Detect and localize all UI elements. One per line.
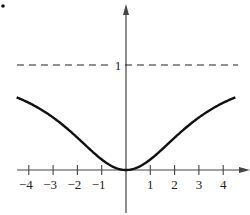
x-tick-label: 1: [147, 177, 154, 192]
x-tick-label: −4: [19, 177, 33, 192]
y-tick-label: 1: [115, 58, 122, 73]
x-tick-label: 2: [171, 177, 178, 192]
bullet-marker: [1, 4, 5, 8]
x-tick-label: 3: [196, 177, 203, 192]
tick-labels: −4−3−2−112341: [19, 58, 227, 192]
asymptote-line: [17, 59, 238, 71]
y-axis-arrow-icon: [123, 4, 129, 15]
x-tick-label: −2: [67, 177, 81, 192]
x-tick-label: −1: [92, 177, 106, 192]
chart: −4−3−2−112341: [0, 0, 250, 215]
x-axis-arrow-icon: [239, 167, 250, 173]
x-tick-label: 4: [220, 177, 227, 192]
x-tick-label: −3: [43, 177, 57, 192]
